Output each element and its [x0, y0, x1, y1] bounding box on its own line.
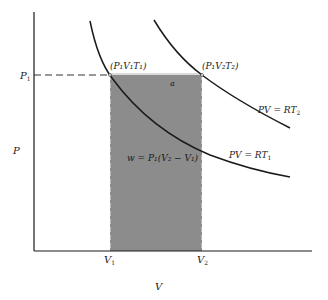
state-point-1	[109, 74, 112, 77]
y-tick-p1: P1	[20, 71, 31, 82]
isotherm-t1-label: PV = RT1	[229, 151, 271, 161]
y-axis-label: P	[13, 146, 20, 156]
state-point-2	[201, 74, 204, 77]
x-tick-v2: V2	[197, 255, 208, 266]
x-tick-v1: V1	[104, 255, 115, 266]
pv-diagram: P1 P V1 V2 V (P₁V₁T₁) (P₁V₂T₂) a w = P₁(…	[0, 0, 328, 300]
pv-diagram-svg	[0, 0, 328, 300]
state-2-label: (P₁V₂T₂)	[202, 62, 238, 71]
x-axis-label: V	[155, 282, 162, 292]
state-1-label: (P₁V₁T₁)	[110, 62, 146, 71]
isotherm-t2-label: PV = RT2	[258, 106, 300, 116]
work-formula: w = P₁(V₂ − V₁)	[127, 154, 198, 163]
work-area	[110, 75, 202, 251]
process-label-a: a	[170, 80, 175, 88]
